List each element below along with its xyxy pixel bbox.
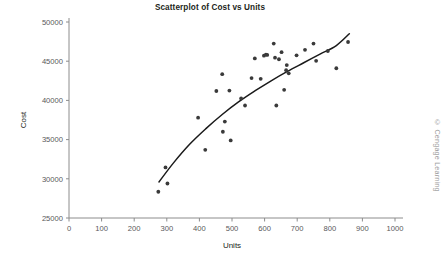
- scatter-point: [282, 88, 286, 92]
- scatter-point: [284, 68, 288, 72]
- scatter-point: [295, 53, 299, 57]
- y-axis-tick-label: 35000: [42, 135, 63, 144]
- y-axis-tick-label: 25000: [42, 214, 63, 223]
- scatter-point: [229, 138, 233, 142]
- scatter-point: [166, 182, 170, 186]
- y-axis-tick-label: 40000: [42, 96, 63, 105]
- x-axis-tick-label: 100: [95, 224, 108, 233]
- y-axis-title: Cost: [19, 111, 28, 128]
- plot-canvas: 2500030000350004000045000500000100200300…: [0, 0, 444, 268]
- scatter-point: [203, 148, 207, 152]
- scatter-point: [259, 77, 263, 81]
- scatter-point: [253, 57, 257, 61]
- scatter-point: [312, 42, 316, 46]
- scatter-point: [220, 72, 224, 76]
- scatterplot-figure: Scatterplot of Cost vs Units 25000300003…: [0, 0, 444, 268]
- scatter-point: [314, 59, 318, 63]
- copyright-credit: © Cengage Learning: [433, 118, 442, 192]
- x-axis-title: Units: [223, 241, 241, 250]
- scatter-point: [272, 42, 276, 46]
- x-axis-tick-label: 500: [226, 224, 239, 233]
- y-axis-tick-label: 45000: [42, 57, 63, 66]
- scatter-point: [164, 166, 168, 170]
- scatter-point: [285, 63, 289, 67]
- scatter-point: [326, 49, 330, 53]
- scatter-point: [277, 57, 281, 61]
- scatter-point: [287, 71, 291, 75]
- scatter-point: [243, 104, 247, 108]
- x-axis-tick-label: 1000: [387, 224, 404, 233]
- scatter-point: [273, 56, 277, 60]
- y-axis-tick-label: 30000: [42, 175, 63, 184]
- scatter-points-group: [156, 40, 350, 194]
- scatter-point: [223, 120, 227, 124]
- scatter-point: [250, 76, 254, 80]
- x-axis-tick-label: 200: [128, 224, 141, 233]
- scatter-point: [303, 48, 307, 52]
- y-axis-tick-label: 50000: [42, 18, 63, 27]
- scatter-point: [214, 89, 218, 93]
- scatter-point: [227, 89, 231, 93]
- x-axis-tick-label: 900: [356, 224, 369, 233]
- scatter-point: [196, 116, 200, 120]
- x-axis-tick-label: 800: [323, 224, 336, 233]
- x-axis-tick-label: 0: [67, 224, 71, 233]
- x-axis-tick-label: 300: [160, 224, 173, 233]
- scatter-point: [334, 66, 338, 70]
- x-axis-tick-label: 400: [193, 224, 206, 233]
- scatter-point: [280, 50, 284, 54]
- trend-curve: [159, 34, 349, 182]
- x-axis-tick-label: 700: [291, 224, 304, 233]
- x-axis-tick-label: 600: [258, 224, 271, 233]
- scatter-point: [274, 104, 278, 108]
- scatter-point: [221, 130, 225, 134]
- scatter-point: [346, 40, 350, 44]
- scatter-point: [265, 53, 269, 57]
- scatter-point: [156, 190, 160, 194]
- scatter-point: [239, 97, 243, 101]
